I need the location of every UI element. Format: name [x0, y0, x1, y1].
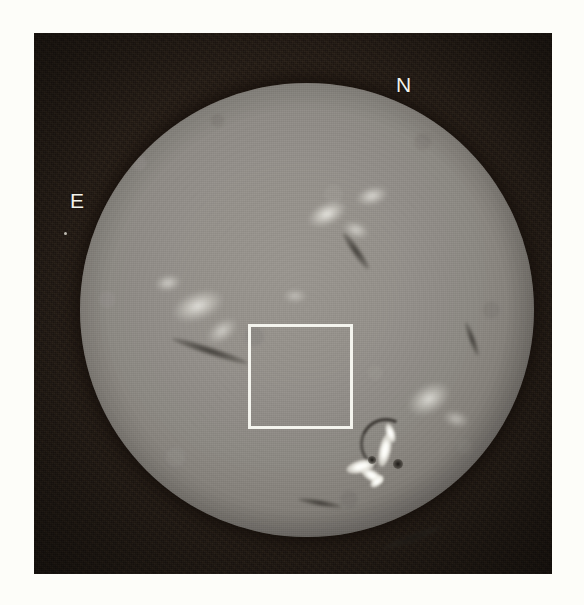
solar-image-page: NE [0, 0, 584, 605]
plate-speck [64, 232, 67, 235]
orientation-label-east: E [70, 190, 85, 211]
photographic-plate: NE [34, 33, 552, 574]
annotation-overlay-layer: NE [34, 33, 552, 574]
roi-box-active-region [248, 324, 353, 429]
orientation-label-north: N [396, 74, 412, 95]
